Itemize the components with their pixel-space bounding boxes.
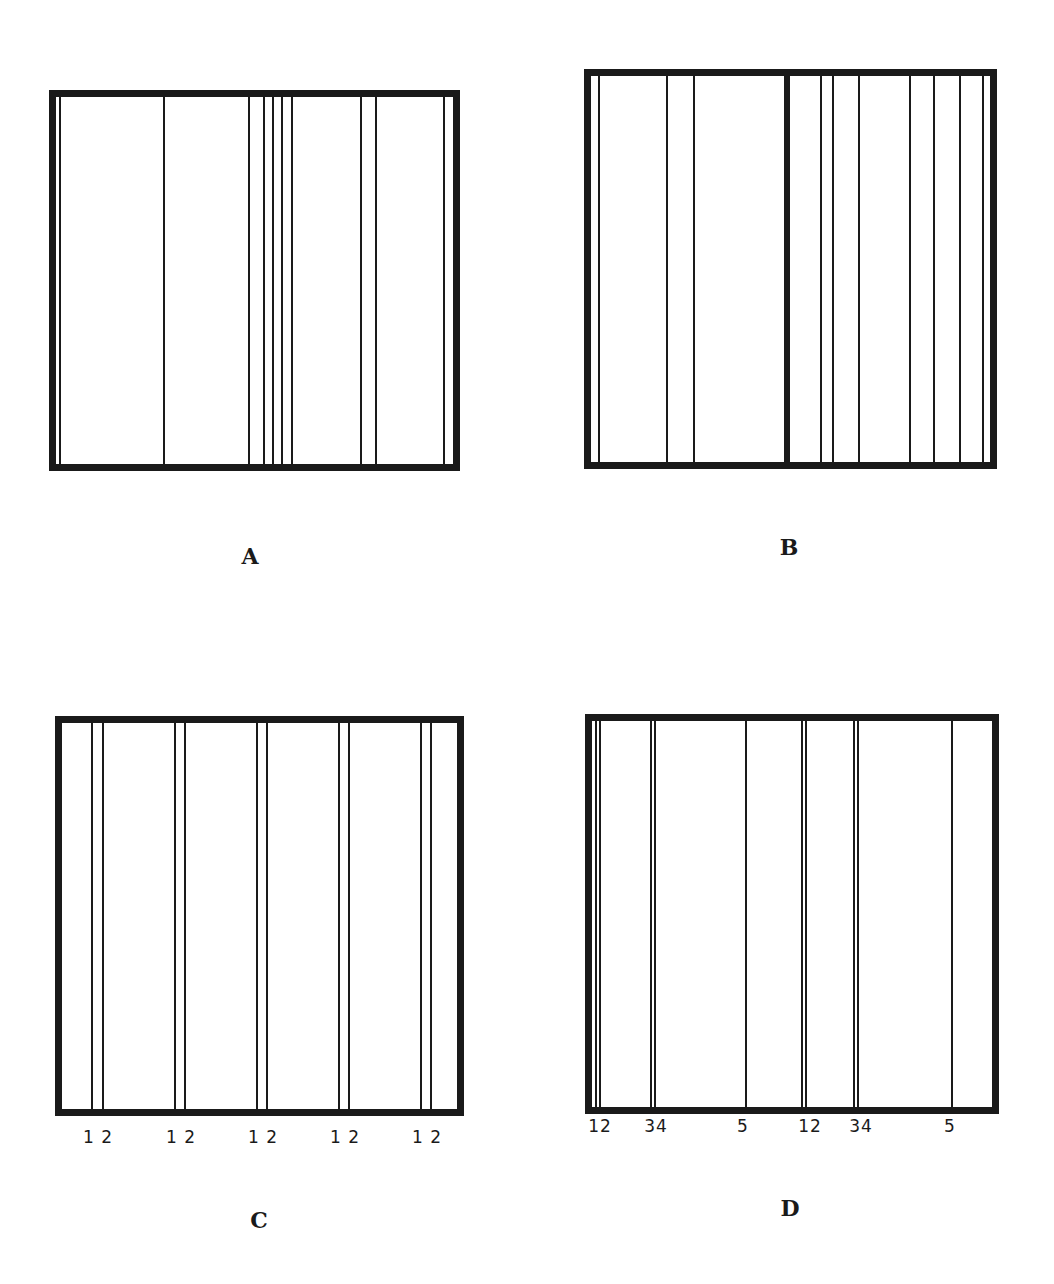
line-index-label: 5 [737,1116,749,1136]
line-index-label: 1 2 [83,1127,113,1147]
stripe-line [693,76,695,462]
line-index-label: 12 [798,1116,822,1136]
stripe-line [420,723,422,1109]
panel-c [55,716,464,1116]
panel-label-d: D [780,1195,799,1221]
stripe-line [263,97,265,464]
divider-line [784,76,790,462]
stripe-line [348,723,350,1109]
stripe-line [820,76,822,462]
panel-label-a: A [241,543,258,569]
panel-label-c: C [250,1207,268,1233]
panel-b [584,69,997,469]
stripe-line [805,721,807,1107]
stripe-line [858,76,860,462]
stripe-line [959,76,961,462]
stripe-line [801,721,803,1107]
line-index-label: 1 2 [412,1127,442,1147]
line-index-label: 12 [588,1116,612,1136]
stripe-line [360,97,362,464]
stripe-line [102,723,104,1109]
line-index-label: 5 [944,1116,956,1136]
stripe-line [599,721,601,1107]
stripe-line [430,723,432,1109]
panel-label-b: B [780,534,799,560]
stripe-line [91,723,93,1109]
stripe-line [291,97,293,464]
stripe-line [654,721,656,1107]
stripe-line [951,721,953,1107]
line-index-label: 1 2 [330,1127,360,1147]
line-index-label: 1 2 [166,1127,196,1147]
stripe-line [256,723,258,1109]
stripe-line [338,723,340,1109]
stripe-line [248,97,250,464]
stripe-line [266,723,268,1109]
stripe-line [933,76,935,462]
stripe-line [853,721,855,1107]
stripe-line [857,721,859,1107]
line-index-label: 34 [644,1116,668,1136]
stripe-line [443,97,445,464]
stripe-line [666,76,668,462]
stripe-line [982,76,984,462]
stripe-line [163,97,165,464]
stripe-line [650,721,652,1107]
stripe-line [375,97,377,464]
stripe-line [281,97,283,464]
stripe-line [595,721,597,1107]
stripe-line [174,723,176,1109]
panel-a [49,90,460,471]
stripe-line [184,723,186,1109]
stripe-line [909,76,911,462]
line-index-label: 1 2 [248,1127,278,1147]
stripe-line [59,97,61,464]
line-index-label: 34 [849,1116,873,1136]
stripe-line [272,97,274,464]
stripe-line [832,76,834,462]
stripe-line [598,76,600,462]
stripe-line [745,721,747,1107]
panel-d [585,714,999,1114]
